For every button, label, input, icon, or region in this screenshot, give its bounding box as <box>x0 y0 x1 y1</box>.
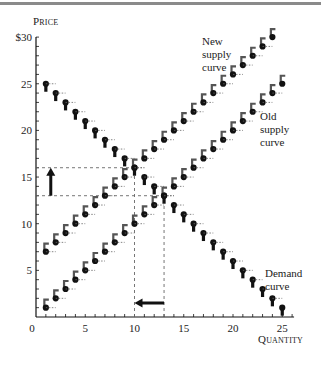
x-tick-label: 15 <box>178 322 190 334</box>
demand-point <box>210 239 216 245</box>
old-supply-point <box>151 202 157 208</box>
new-supply-point <box>269 34 275 40</box>
y-tick-label: 5 <box>27 264 33 276</box>
arrow-up-icon <box>46 168 55 176</box>
demand-point <box>200 230 206 236</box>
new-supply-label: New supply curve <box>202 35 231 74</box>
x-tick-label: 10 <box>129 322 141 334</box>
supply-demand-chart: 0510152025510152025$30 <box>0 0 321 366</box>
x-tick-label: 20 <box>228 322 240 334</box>
old-supply-point <box>210 146 216 152</box>
new-supply-point <box>161 137 167 143</box>
y-tick-label: 20 <box>21 124 33 136</box>
new-supply-point <box>200 99 206 105</box>
x-tick-label: 5 <box>83 322 89 334</box>
demand-point <box>151 183 157 189</box>
arrow-left-icon <box>135 299 143 308</box>
y-tick-label: $30 <box>16 31 33 43</box>
old-supply-label: Old supply curve <box>260 110 289 149</box>
demand-label: Demand curve <box>265 267 302 293</box>
old-supply-point <box>279 81 285 87</box>
y-tick-label: 25 <box>21 78 33 90</box>
demand-point <box>250 277 256 283</box>
new-supply-point <box>250 53 256 59</box>
y-tick-label: 15 <box>21 171 33 183</box>
x-tick-label: 0 <box>29 322 35 334</box>
old-supply-point <box>161 193 167 199</box>
new-supply-point <box>210 90 216 96</box>
new-supply-point <box>151 146 157 152</box>
old-supply-point <box>200 155 206 161</box>
y-axis-title: Price <box>33 15 58 28</box>
x-axis-title: Quantity <box>258 333 303 346</box>
y-tick-label: 10 <box>21 218 33 230</box>
demand-point <box>279 305 285 311</box>
old-supply-point <box>250 109 256 115</box>
